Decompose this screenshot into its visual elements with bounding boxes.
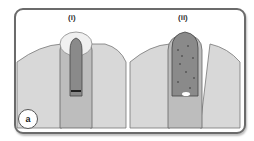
panel-label-i: (i) xyxy=(68,13,76,22)
panel-label-ii: (ii) xyxy=(178,13,188,22)
panel-ii-illustration xyxy=(130,32,240,128)
anatomy-illustration xyxy=(0,0,254,141)
panel-letter-badge: a xyxy=(18,109,38,129)
